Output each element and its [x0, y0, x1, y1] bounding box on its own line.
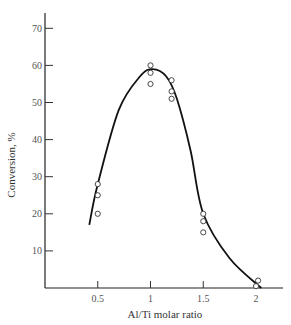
data-point [201, 219, 206, 224]
y-tick-label: 10 [32, 245, 42, 256]
data-point [169, 89, 174, 94]
data-point [95, 211, 100, 216]
y-axis-title: Conversion, % [5, 132, 17, 197]
y-tick-label: 30 [32, 171, 42, 182]
y-tick-label: 70 [32, 23, 42, 34]
x-tick-label: 2 [254, 293, 259, 304]
data-point [95, 193, 100, 198]
data-point [201, 230, 206, 235]
conversion-chart: 10203040506070 0.511.52 Al/Ti molar rati… [0, 0, 291, 325]
x-ticks: 0.511.52 [92, 281, 259, 304]
y-tick-label: 60 [32, 60, 42, 71]
data-point [148, 81, 153, 86]
x-tick-label: 0.5 [92, 293, 105, 304]
axes [45, 13, 283, 288]
data-points [95, 63, 261, 289]
y-tick-label: 20 [32, 208, 42, 219]
data-point [148, 63, 153, 68]
data-point [201, 211, 206, 216]
x-tick-label: 1 [148, 293, 153, 304]
x-axis-title: Al/Ti molar ratio [128, 308, 203, 320]
y-tick-label: 50 [32, 97, 42, 108]
y-ticks: 10203040506070 [32, 23, 53, 257]
data-point [148, 70, 153, 75]
data-point [256, 278, 261, 283]
data-point [253, 284, 258, 289]
data-point [95, 182, 100, 187]
fitted-curve [89, 69, 261, 288]
data-point [169, 78, 174, 83]
x-tick-label: 1.5 [197, 293, 210, 304]
y-tick-label: 40 [32, 134, 42, 145]
data-point [169, 96, 174, 101]
